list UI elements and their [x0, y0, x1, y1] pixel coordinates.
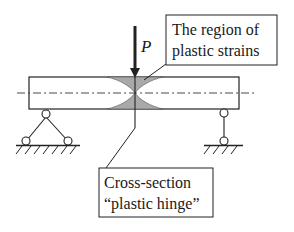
plastic-hinge-diagram: P The region of plastic strains Cross-se…	[0, 0, 294, 232]
load-label: P	[140, 37, 151, 56]
plastic-region-callout: The region of plastic strains	[166, 15, 277, 65]
region-label-line2: plastic strains	[172, 42, 260, 60]
hinge-label-line2: “plastic hinge”	[104, 195, 200, 213]
plastic-hinge-callout: Cross-section “plastic hinge”	[99, 168, 213, 217]
pinned-support-icon	[16, 110, 80, 154]
hinge-label-line1: Cross-section	[104, 174, 191, 191]
roller-support-icon	[204, 109, 243, 154]
hinge-leader-line	[106, 128, 135, 168]
region-label-line1: The region of	[172, 21, 260, 39]
load-arrow-icon	[130, 26, 140, 78]
